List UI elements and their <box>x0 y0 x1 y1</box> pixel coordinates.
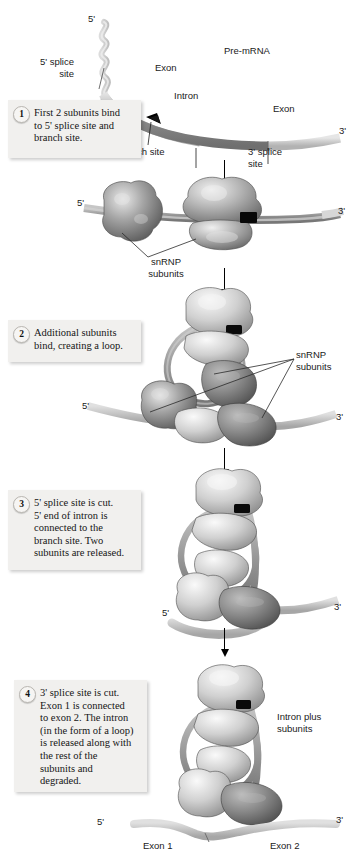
step-2-callout: 2 Additional subunits bind, creating a l… <box>8 320 141 362</box>
five-splice-site-label: 5' splice site <box>12 56 74 79</box>
intron-plus-subunits-label: Intron plus subunits <box>277 711 349 734</box>
panel2-3prime-label: 3' <box>338 205 345 216</box>
step-1-text: First 2 subunits bind to 5' splice site … <box>34 107 133 145</box>
panel4-3prime-label: 3' <box>334 601 341 612</box>
panel5-snrnp-bottom-right <box>221 782 282 825</box>
exon-right-label: Exon <box>273 103 295 115</box>
panel4-5prime-label: 5' <box>162 607 169 618</box>
panel5-snrnp-top <box>198 665 265 713</box>
panel2-snrnp-left <box>103 181 163 241</box>
arrow-2-to-3 <box>224 268 225 290</box>
step-3-callout: 3 5' splice site is cut. 5' end of intro… <box>8 490 141 570</box>
panel2-5prime-label: 5' <box>77 197 84 208</box>
exon1-label: Exon 1 <box>143 840 173 852</box>
arrow-4-to-5 <box>224 628 225 650</box>
panel3-leader-b <box>262 359 294 418</box>
three-splice-site-label: 3' splice site <box>248 146 308 169</box>
panel3-5prime-label: 5' <box>82 400 89 411</box>
step-1-badge: 1 <box>13 106 30 123</box>
panel3-snrnp-top <box>186 288 253 337</box>
pre-mrna-label: Pre-mRNA <box>224 45 270 57</box>
panel4-rna-3prime <box>272 600 338 610</box>
panel1-5prime-label: 5' <box>88 13 95 24</box>
panel3-graphics <box>0 288 355 473</box>
splicing-diagram: 5' 3' Pre-mRNA 5' splice site Exon Intro… <box>0 0 355 855</box>
pre-mrna-exon-right <box>268 138 340 146</box>
panel3-3prime-label: 3' <box>336 411 343 422</box>
panel3-snrnp-bottom-right <box>218 403 277 446</box>
panel2-snrnp-label: snRNP subunits <box>131 256 201 279</box>
step-1-callout: 1 First 2 subunits bind to 5' splice sit… <box>8 100 141 158</box>
step-3-text: 5' splice site is cut. 5' end of intron … <box>34 497 133 560</box>
step-4-callout: 4 3' splice site is cut. Exon 1 is conne… <box>14 680 147 792</box>
step-2-badge: 2 <box>13 326 30 343</box>
panel2-leader-b <box>148 239 196 257</box>
panel4-snrnp-bottom-right <box>219 586 280 629</box>
intron-label: Intron <box>174 90 198 102</box>
panel5-5prime-label: 5' <box>97 816 104 827</box>
exon-left-label: Exon <box>155 62 177 74</box>
spliced-mrna-strand <box>134 823 336 837</box>
panel1-3prime-label: 3' <box>339 125 346 136</box>
step-4-text: 3' splice site is cut. Exon 1 is connect… <box>40 687 139 788</box>
panel5-snrnp-mid <box>194 709 259 746</box>
panel5-branch-site-marker <box>236 700 251 709</box>
step-2-text: Additional subunits bind, creating a loo… <box>34 327 133 352</box>
step-3-badge: 3 <box>13 496 30 513</box>
panel4-snrnp-top <box>196 469 263 517</box>
panel4-snrnp-mid <box>192 513 257 550</box>
step-4-badge: 4 <box>19 686 36 703</box>
panel3-branch-site-marker <box>226 325 242 334</box>
panel3-snrnp-label: snRNP subunits <box>296 349 354 372</box>
panel2-branch-site-marker <box>240 212 257 223</box>
panel4-branch-site-marker <box>234 504 250 513</box>
panel5-3prime-label: 3' <box>336 814 343 825</box>
arrow-3-to-4 <box>224 448 225 470</box>
exon2-label: Exon 2 <box>270 840 300 852</box>
